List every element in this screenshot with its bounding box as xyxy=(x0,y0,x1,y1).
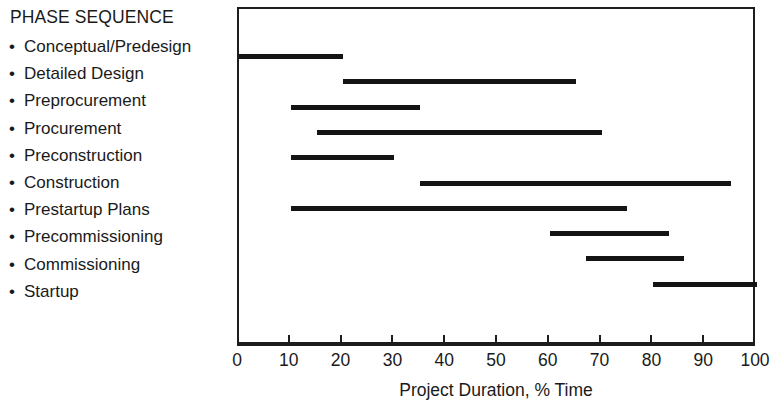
x-axis-tick-label: 60 xyxy=(538,350,557,370)
gantt-bar xyxy=(239,54,343,59)
bullet-icon: • xyxy=(9,196,15,223)
gantt-bar xyxy=(317,130,602,135)
phase-list-item: •Commissioning xyxy=(8,251,233,278)
x-axis-tick-label: 10 xyxy=(279,350,298,370)
x-axis-tick-label: 0 xyxy=(232,350,242,370)
bullet-icon: • xyxy=(9,251,15,278)
x-axis-tick xyxy=(340,335,342,344)
gantt-bar xyxy=(291,105,421,110)
phase-list-item: •Preconstruction xyxy=(8,142,233,169)
x-axis-tick-label: 40 xyxy=(434,350,453,370)
bullet-icon: • xyxy=(9,33,15,60)
phase-sequence-heading: PHASE SEQUENCE xyxy=(10,6,233,28)
x-axis-tick-label: 100 xyxy=(740,350,769,370)
x-axis-tick-label: 30 xyxy=(383,350,402,370)
phase-list-item-label: Conceptual/Predesign xyxy=(24,37,191,56)
bullet-icon: • xyxy=(9,223,15,250)
phase-list-item: •Conceptual/Predesign xyxy=(8,33,233,60)
bullet-icon: • xyxy=(9,278,15,305)
phase-list-item-label: Precommissioning xyxy=(24,227,163,246)
gantt-bar xyxy=(653,282,757,287)
x-axis-tick-label: 50 xyxy=(486,350,505,370)
x-axis-tick xyxy=(702,335,704,344)
gantt-bar xyxy=(291,206,628,211)
x-axis-tick-label: 80 xyxy=(642,350,661,370)
bullet-icon: • xyxy=(9,142,15,169)
x-axis: 0102030405060708090100 Project Duration,… xyxy=(237,344,755,411)
x-axis-tick xyxy=(288,335,290,344)
phase-list-item-label: Prestartup Plans xyxy=(24,200,150,219)
phase-list-item-label: Startup xyxy=(24,282,79,301)
phase-list-item: •Precommissioning xyxy=(8,223,233,250)
gantt-bar xyxy=(420,181,731,186)
x-axis-line xyxy=(237,344,755,346)
phase-list-item: •Prestartup Plans xyxy=(8,196,233,223)
bullet-icon: • xyxy=(9,60,15,87)
phase-list-item-label: Preconstruction xyxy=(24,146,142,165)
x-axis-tick xyxy=(495,335,497,344)
gantt-bar xyxy=(550,231,669,236)
gantt-bar xyxy=(291,155,395,160)
gantt-bars-container xyxy=(239,9,753,342)
x-axis-tick xyxy=(443,335,445,344)
x-axis-tick xyxy=(650,335,652,344)
phase-list-item: •Construction xyxy=(8,169,233,196)
phase-list-item-label: Detailed Design xyxy=(24,64,144,83)
bullet-icon: • xyxy=(9,87,15,114)
bullet-icon: • xyxy=(9,169,15,196)
phase-list-item: •Startup xyxy=(8,278,233,305)
phase-list-item: •Preprocurement xyxy=(8,87,233,114)
phase-list-item-label: Preprocurement xyxy=(24,91,146,110)
x-axis-title: Project Duration, % Time xyxy=(237,380,755,401)
phase-sequence-panel: PHASE SEQUENCE •Conceptual/Predesign•Det… xyxy=(8,6,233,305)
bullet-icon: • xyxy=(9,115,15,142)
x-axis-tick-label: 90 xyxy=(693,350,712,370)
gantt-bar xyxy=(586,256,684,261)
x-axis-tick xyxy=(547,335,549,344)
x-axis-tick-label: 20 xyxy=(331,350,350,370)
phase-list-item: •Procurement xyxy=(8,115,233,142)
x-axis-tick xyxy=(391,335,393,344)
phase-list-item-label: Procurement xyxy=(24,119,121,138)
phase-list-item-label: Construction xyxy=(24,173,119,192)
gantt-chart-plot-area xyxy=(237,7,755,344)
phase-list-item: •Detailed Design xyxy=(8,60,233,87)
phase-list-item-label: Commissioning xyxy=(24,255,140,274)
x-axis-tick xyxy=(599,335,601,344)
phase-sequence-list: •Conceptual/Predesign•Detailed Design•Pr… xyxy=(8,33,233,305)
gantt-bar xyxy=(343,79,576,84)
x-axis-tick-label: 70 xyxy=(590,350,609,370)
